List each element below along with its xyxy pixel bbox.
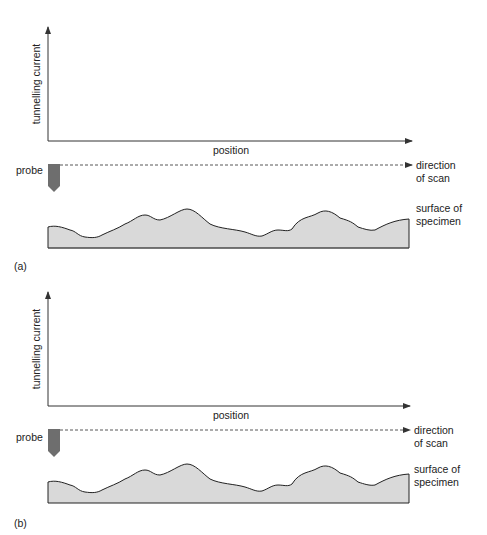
surface-label-line2: specimen [416, 215, 461, 227]
scan-label-line1: direction [416, 159, 456, 171]
surface-label-line1: surface of [414, 463, 460, 475]
probe-icon [48, 429, 60, 457]
surface-label-line1: surface of [416, 202, 462, 214]
specimen-surface [48, 464, 409, 503]
scan-label-line2: of scan [416, 172, 450, 184]
stm-diagram: tunnelling current position direction of… [0, 0, 487, 535]
panel-a: tunnelling current position direction of… [14, 27, 462, 272]
surface-label-line2: specimen [414, 476, 459, 488]
specimen-surface [48, 209, 409, 248]
y-axis-label: tunnelling current [30, 309, 42, 390]
probe-icon [48, 164, 60, 192]
probe-label: probe [16, 431, 43, 443]
y-axis-label: tunnelling current [30, 44, 42, 125]
x-axis-label: position [213, 144, 249, 156]
panel-label: (a) [14, 260, 27, 272]
x-axis-label: position [213, 409, 249, 421]
probe-label: probe [16, 164, 43, 176]
scan-label-line2: of scan [414, 437, 448, 449]
panel-label: (b) [14, 517, 27, 529]
panel-b: tunnelling current position direction of… [14, 292, 460, 529]
scan-label-line1: direction [414, 424, 454, 436]
